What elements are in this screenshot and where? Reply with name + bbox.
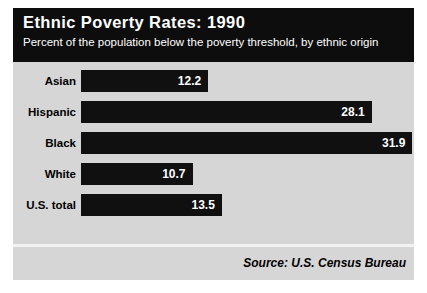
bar-track: 10.7 [81,163,414,185]
footer-divider [13,244,414,247]
chart-header: Ethnic Poverty Rates: 1990 Percent of th… [13,8,414,62]
bar-value-label: 31.9 [382,132,405,154]
bar-track: 12.2 [81,70,414,92]
bar-row: White 10.7 [13,163,414,185]
source-note: Source: U.S. Census Bureau [243,256,406,270]
bar-fill: 12.2 [81,70,208,92]
bar-chart-plot-area: Asian 12.2 Hispanic 28.1 Black 31.9 [13,70,414,233]
bar-row: Asian 12.2 [13,70,414,92]
bar-value-label: 28.1 [341,101,364,123]
chart-panel: Ethnic Poverty Rates: 1990 Percent of th… [13,8,414,280]
bar-category-label: Hispanic [13,101,81,123]
bar-track: 31.9 [81,132,414,154]
bar-fill: 28.1 [81,101,372,123]
bar-track: 28.1 [81,101,414,123]
bar-fill: 31.9 [81,132,412,154]
bar-category-label: Black [13,132,81,154]
bar-fill: 13.5 [81,194,222,216]
bar-value-label: 13.5 [191,194,214,216]
bar-category-label: U.S. total [13,194,81,216]
bar-value-label: 12.2 [178,70,201,92]
bar-value-label: 10.7 [162,163,185,185]
chart-title: Ethnic Poverty Rates: 1990 [23,13,404,32]
bar-row: U.S. total 13.5 [13,194,414,216]
bar-row: Hispanic 28.1 [13,101,414,123]
bar-row: Black 31.9 [13,132,414,154]
bar-track: 13.5 [81,194,414,216]
bar-category-label: Asian [13,70,81,92]
bar-fill: 10.7 [81,163,193,185]
bar-category-label: White [13,163,81,185]
chart-subtitle: Percent of the population below the pove… [23,35,404,50]
